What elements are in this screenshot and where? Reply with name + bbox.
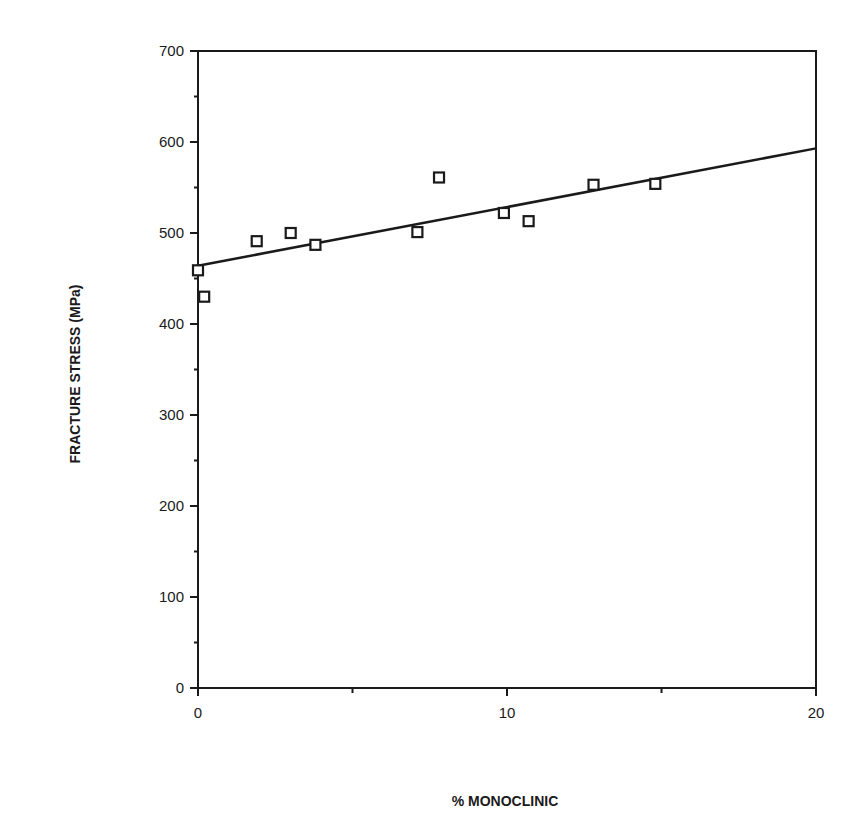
plot-frame <box>198 51 816 688</box>
data-point-square <box>199 292 209 302</box>
data-point-square <box>252 236 262 246</box>
x-axis-ticks: 01020 <box>194 688 825 721</box>
data-point-square <box>310 240 320 250</box>
x-tick-label: 0 <box>194 704 202 721</box>
data-point-square <box>193 265 203 275</box>
y-axis-ticks: 0100200300400500600700 <box>159 42 198 696</box>
data-point-square <box>499 208 509 218</box>
data-point-square <box>286 228 296 238</box>
y-tick-label: 600 <box>159 133 184 150</box>
plot-border <box>198 51 816 688</box>
x-tick-label: 20 <box>808 704 825 721</box>
chart: 0100200300400500600700 01020 FRACTURE ST… <box>0 0 859 840</box>
y-tick-label: 200 <box>159 497 184 514</box>
data-point-square <box>412 227 422 237</box>
y-tick-label: 100 <box>159 588 184 605</box>
y-axis-title: FRACTURE STRESS (MPa) <box>67 285 83 464</box>
y-tick-label: 500 <box>159 224 184 241</box>
data-point-square <box>589 180 599 190</box>
y-tick-label: 700 <box>159 42 184 59</box>
y-tick-label: 300 <box>159 406 184 423</box>
y-tick-label: 400 <box>159 315 184 332</box>
data-point-square <box>524 216 534 226</box>
x-axis-title: % MONOCLINIC <box>452 793 559 809</box>
data-point-square <box>434 172 444 182</box>
y-tick-label: 0 <box>176 679 184 696</box>
data-point-square <box>650 179 660 189</box>
x-tick-label: 10 <box>499 704 516 721</box>
